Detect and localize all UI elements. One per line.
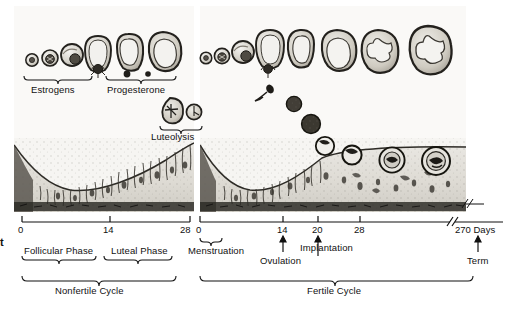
zygote-icon [286, 96, 301, 111]
corpus-luteum-pregnancy-icon-r [410, 26, 452, 74]
label-luteolysis: Luteolysis [151, 131, 194, 142]
axis-tick-label-14-right: 14 [277, 224, 288, 235]
primordial-follicle-icon [26, 54, 38, 66]
secondary-follicle-icon [61, 44, 83, 66]
axis-tick-label-0-right: 0 [196, 224, 201, 235]
axis-tick-label-28-left: 28 [180, 224, 191, 235]
brace-luteal-phase [104, 256, 172, 264]
label-implantation: Implantation [300, 242, 353, 253]
label-ovulation: Ovulation [260, 255, 301, 266]
label-follicular-phase: Follicular Phase [24, 245, 93, 256]
brace-follicular-phase [22, 256, 96, 264]
label-fertile-cycle: Fertile Cycle [307, 285, 361, 296]
early-embryo-icon [379, 147, 404, 172]
fetus-in-sac-icon [422, 147, 450, 175]
primary-follicle-icon-r [214, 48, 229, 63]
corpus-luteum-early-icon-r [322, 30, 356, 71]
endometrium-nonfertile [14, 138, 194, 212]
secondary-follicle-icon-r [232, 41, 254, 63]
axis-end-label: 270 Days [455, 224, 495, 235]
ruptured-follicle-icon-r [288, 30, 314, 68]
label-term: Term [467, 255, 489, 266]
label-nonfertile-cycle: Nonfertile Cycle [55, 285, 124, 296]
label-estrogens: Estrogens [31, 84, 75, 95]
arrow-ovulation [280, 236, 286, 252]
arrow-term [475, 236, 481, 252]
morula-icon [302, 115, 321, 134]
axis-nonfertile [22, 216, 190, 222]
corpus-luteum-mid-icon-r [362, 30, 399, 73]
axis-tick-label-20-right: 20 [312, 224, 323, 235]
label-menstruation: Menstruation [188, 245, 244, 256]
axis-tick-label-28-right: 28 [354, 224, 365, 235]
axis-tick-label-0-left: 0 [18, 224, 23, 235]
label-luteal-phase: Luteal Phase [111, 245, 168, 256]
figure-root: t [0, 0, 527, 309]
primary-follicle-icon [42, 50, 58, 66]
label-progesterone: Progesterone [107, 84, 165, 95]
primordial-follicle-icon-r [200, 52, 212, 64]
implanting-blastocyst-icon [342, 145, 361, 164]
axis-tick-label-14-left: 14 [103, 224, 114, 235]
blastocyst-icon [316, 137, 334, 155]
